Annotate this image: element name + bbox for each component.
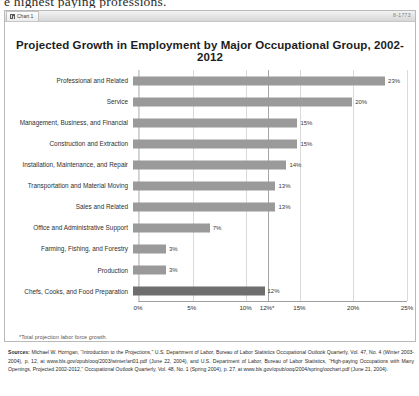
bar[interactable]	[133, 181, 275, 190]
category-label: Construction and Extraction	[15, 140, 133, 148]
x-tick-label: 10%	[239, 304, 251, 311]
bar-value-label: 13%	[278, 183, 290, 189]
chart-footnote: *Total projection labor force growth.	[19, 334, 107, 340]
bar-rows: Professional and Related23%Service20%Man…	[15, 70, 407, 302]
bar-value-label: 14%	[289, 162, 301, 168]
bar-track: 20%	[133, 91, 407, 112]
chart-row: Professional and Related23%	[15, 70, 407, 91]
bar[interactable]	[133, 160, 286, 169]
chart-row: Production3%	[15, 260, 407, 281]
bar[interactable]	[133, 76, 385, 85]
x-tick-label: 5%	[187, 304, 196, 311]
bar-track: 3%	[133, 260, 407, 281]
bar[interactable]	[133, 97, 352, 106]
bar-track: 13%	[133, 197, 407, 218]
bar-track: 14%	[133, 154, 407, 175]
bar-value-label: 15%	[300, 141, 312, 147]
page-root: e highest paying professions. Chart 1 8-…	[0, 0, 419, 396]
bar[interactable]	[133, 224, 210, 233]
window-right-label: 8-1773	[393, 12, 411, 18]
bar[interactable]	[133, 203, 275, 212]
category-label: Professional and Related	[15, 77, 133, 85]
chart-row: Office and Administrative Support7%	[15, 218, 407, 239]
bar-value-label: 3%	[169, 246, 178, 252]
bar-value-label: 3%	[169, 267, 178, 273]
bar-track: 15%	[133, 133, 407, 154]
bar-track: 15%	[133, 112, 407, 133]
x-tick-label: 0%	[134, 304, 143, 311]
x-axis-ticks: 0%5%10%12%*15%20%25%	[138, 303, 407, 315]
bar[interactable]	[133, 266, 166, 275]
x-tick-label: 15%	[293, 304, 305, 311]
bar-value-label: 15%	[300, 120, 312, 126]
bar-track: 7%	[133, 218, 407, 239]
bar-track: 3%	[133, 239, 407, 260]
chart-row: Transportation and Material Moving13%	[15, 175, 407, 196]
chart-row: Construction and Extraction15%	[15, 133, 407, 154]
bar[interactable]	[133, 287, 265, 296]
chart-row: Management, Business, and Financial15%	[15, 112, 407, 133]
page-top-text-fragment: e highest paying professions.	[4, 0, 304, 8]
chart-body: Projected Growth in Employment by Major …	[5, 22, 415, 342]
bar-track: 12%	[133, 281, 407, 302]
gridline-25	[407, 70, 408, 301]
plot-area: Professional and Related23%Service20%Man…	[15, 70, 407, 315]
bar-track: 23%	[133, 70, 407, 91]
sources-label: Sources:	[8, 349, 30, 355]
window-titlebar: Chart 1 8-1773	[5, 11, 415, 22]
bar-track: 13%	[133, 175, 407, 196]
bar[interactable]	[133, 118, 297, 127]
chart-row: Service20%	[15, 91, 407, 112]
category-label: Management, Business, and Financial	[15, 119, 133, 127]
chart-row: Farming, Fishing, and Forestry3%	[15, 239, 407, 260]
chart-row: Chefs, Cooks, and Food Preparation12%	[15, 281, 407, 302]
category-label: Installation, Maintenance, and Repair	[15, 161, 133, 169]
bar-value-label: 20%	[355, 99, 367, 105]
bar-value-label: 13%	[278, 204, 290, 210]
bar-value-label: 12%	[268, 288, 280, 294]
chart-row: Installation, Maintenance, and Repair14%	[15, 154, 407, 175]
tab-label: Chart 1	[17, 14, 33, 19]
category-label: Service	[15, 98, 133, 106]
category-label: Chefs, Cooks, and Food Preparation	[15, 288, 133, 296]
bar[interactable]	[133, 139, 297, 148]
sources-text: Michael W. Horrigan, “Introduction to th…	[8, 349, 414, 372]
category-label: Production	[15, 267, 133, 275]
x-tick-label: 20%	[347, 304, 359, 311]
bar-value-label: 23%	[388, 78, 400, 84]
x-tick-label: 12%*	[260, 304, 275, 311]
category-label: Transportation and Material Moving	[15, 182, 133, 190]
category-label: Office and Administrative Support	[15, 224, 133, 232]
chart-icon	[10, 14, 15, 19]
chart-title: Projected Growth in Employment by Major …	[5, 39, 415, 63]
chart-row: Sales and Related13%	[15, 197, 407, 218]
category-label: Farming, Fishing, and Forestry	[15, 245, 133, 253]
sources-block: Sources: Michael W. Horrigan, “Introduct…	[8, 348, 414, 374]
category-label: Sales and Related	[15, 203, 133, 211]
chart-window: Chart 1 8-1773 Projected Growth in Emplo…	[4, 10, 416, 342]
bar[interactable]	[133, 245, 166, 254]
bar-value-label: 7%	[213, 225, 222, 231]
x-tick-label: 25%	[401, 304, 413, 311]
tab-chart-1[interactable]: Chart 1	[6, 11, 39, 21]
